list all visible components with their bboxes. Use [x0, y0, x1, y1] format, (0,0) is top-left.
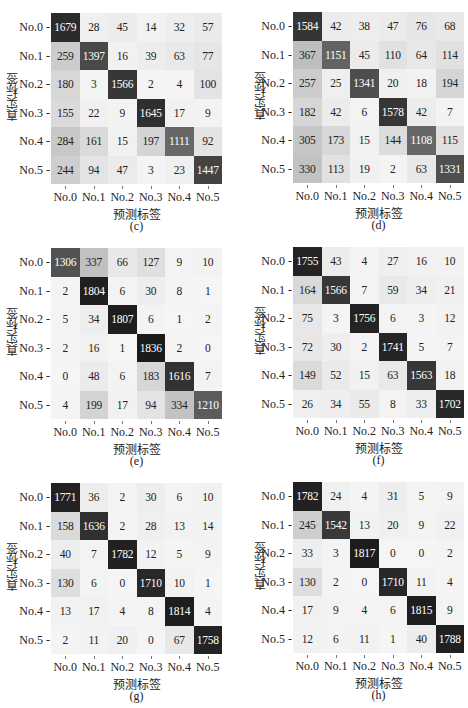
heatmap-cell: 13	[51, 597, 80, 626]
heatmap-cell: 8	[379, 390, 408, 419]
heatmap-cell: 9	[165, 248, 194, 277]
panel-caption: (e)	[51, 454, 222, 469]
heatmap-cell: 2	[350, 333, 379, 362]
heatmap-cell: 114	[436, 41, 465, 70]
heatmap-cell: 34	[322, 390, 351, 419]
heatmap-cell: 14	[137, 13, 166, 42]
heatmap-cell: 1563	[407, 361, 436, 390]
heatmap-cell: 4	[108, 597, 137, 626]
heatmap-cell: 67	[165, 626, 194, 655]
heatmap-cell: 94	[137, 391, 166, 420]
heatmap-cell: 1566	[108, 70, 137, 99]
heatmap-cell: 12	[293, 625, 322, 654]
heatmap-cell: 1836	[137, 334, 166, 363]
heatmap-cell: 183	[137, 362, 166, 391]
heatmap-cell: 110	[379, 41, 408, 70]
heatmap-cell: 2	[322, 568, 351, 597]
heatmap-cell: 1210	[194, 391, 223, 420]
x-tick-mark	[307, 655, 308, 658]
panel-caption: (f)	[293, 453, 464, 468]
heatmap-cell: 1566	[322, 276, 351, 305]
heatmap-cell: 1584	[293, 12, 322, 41]
heatmap-cell: 4	[194, 597, 223, 626]
heatmap-cell: 63	[379, 361, 408, 390]
heatmap-cell: 2	[51, 334, 80, 363]
heatmap-cell: 9	[407, 511, 436, 540]
panel-caption: (g)	[51, 689, 222, 704]
heatmap-cell: 1	[165, 305, 194, 334]
heatmap-cell: 1804	[80, 277, 109, 306]
x-tick-mark	[151, 186, 152, 189]
heatmap-cell: 15	[350, 361, 379, 390]
heatmap-cell: 1814	[165, 597, 194, 626]
heatmap-cell: 17	[108, 391, 137, 420]
heatmap-cell: 2	[379, 155, 408, 184]
heatmap-cell: 63	[165, 42, 194, 71]
x-tick-mark	[65, 656, 66, 659]
x-tick-mark	[65, 421, 66, 424]
x-tick-mark	[179, 656, 180, 659]
heatmap-cell: 7	[436, 98, 465, 127]
heatmap-cell: 3	[80, 70, 109, 99]
heatmap-cell: 43	[322, 247, 351, 276]
heatmap-cell: 305	[293, 126, 322, 155]
heatmap-cell: 42	[322, 12, 351, 41]
heatmap-cell: 1397	[80, 42, 109, 71]
x-tick-mark	[421, 185, 422, 188]
heatmap-cell: 244	[51, 156, 80, 185]
heatmap-cell: 1111	[165, 127, 194, 156]
heatmap-cell: 161	[80, 127, 109, 156]
heatmap-cell: 4	[350, 482, 379, 511]
heatmap-cell: 1151	[322, 41, 351, 70]
heatmap-cell: 284	[51, 127, 80, 156]
heatmap-cell: 8	[165, 277, 194, 306]
heatmap-cell: 40	[51, 540, 80, 569]
heatmap-cell: 9	[194, 540, 223, 569]
x-tick-mark	[122, 656, 123, 659]
heatmap-cell: 30	[322, 333, 351, 362]
x-tick-mark	[208, 421, 209, 424]
heatmap-cell: 20	[108, 626, 137, 655]
heatmap-cell: 5	[407, 482, 436, 511]
heatmap-cell: 180	[51, 70, 80, 99]
heatmap-cell: 42	[322, 98, 351, 127]
heatmap-cell: 158	[51, 512, 80, 541]
heatmap-cell: 7	[80, 540, 109, 569]
x-tick-mark	[450, 185, 451, 188]
heatmap-cell: 13	[165, 512, 194, 541]
x-tick-label: No.5	[434, 659, 467, 674]
heatmap-cell: 33	[293, 539, 322, 568]
heatmap-cell: 39	[137, 42, 166, 71]
heatmap-cell: 0	[379, 539, 408, 568]
x-tick-mark	[151, 656, 152, 659]
heatmap-cell: 3	[322, 539, 351, 568]
heatmap-cell: 1542	[322, 511, 351, 540]
heatmap-cell: 55	[350, 390, 379, 419]
heatmap-grid: 1584423847766836711514511064114257251341…	[293, 12, 464, 183]
y-tick-label: No.5 -	[261, 390, 292, 419]
heatmap-cell: 130	[51, 569, 80, 598]
heatmap-cell: 64	[407, 41, 436, 70]
heatmap-cell: 0	[137, 626, 166, 655]
heatmap-cell: 2	[137, 70, 166, 99]
heatmap-cell: 17	[80, 597, 109, 626]
heatmap-cell: 0	[108, 569, 137, 598]
heatmap-cell: 0	[350, 568, 379, 597]
heatmap-cell: 194	[436, 69, 465, 98]
x-tick-mark	[364, 185, 365, 188]
heatmap-cell: 1788	[436, 625, 465, 654]
x-tick-mark	[179, 421, 180, 424]
x-tick-mark	[364, 420, 365, 423]
heatmap-cell: 15	[350, 126, 379, 155]
heatmap-cell: 24	[322, 482, 351, 511]
y-tick-label: No.1 -	[261, 41, 292, 70]
heatmap-cell: 75	[293, 304, 322, 333]
heatmap-cell: 1702	[436, 390, 465, 419]
y-tick-label: No.5 -	[261, 625, 292, 654]
heatmap-cell: 173	[322, 126, 351, 155]
heatmap-cell: 45	[108, 13, 137, 42]
x-tick-mark	[421, 420, 422, 423]
heatmap-grid: 1306337661279102180463081534180761221611…	[51, 248, 222, 419]
heatmap-cell: 149	[293, 361, 322, 390]
heatmap-cell: 14	[194, 512, 223, 541]
